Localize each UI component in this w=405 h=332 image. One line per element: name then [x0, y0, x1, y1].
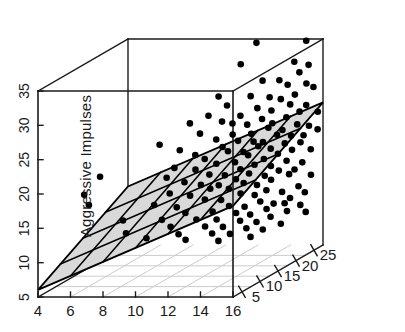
data-point: [192, 166, 199, 173]
data-point: [250, 138, 257, 145]
floor-grid-line-x: [168, 245, 258, 297]
data-point: [213, 216, 220, 223]
data-point: [120, 217, 127, 224]
y-tick-label: 25: [320, 246, 337, 263]
data-point: [259, 226, 266, 233]
data-point: [224, 102, 231, 109]
z-tick-label: 35: [16, 83, 32, 99]
y-tick-label: 20: [302, 257, 319, 274]
data-point: [151, 202, 158, 209]
y-tick: [275, 266, 281, 277]
data-point: [202, 223, 209, 230]
data-point: [254, 182, 261, 189]
data-point: [181, 179, 188, 186]
data-point: [213, 136, 220, 143]
data-point: [232, 159, 239, 166]
data-point: [305, 62, 312, 69]
data-point: [237, 112, 244, 119]
data-point: [159, 217, 166, 224]
scatter3d-plot: 510152025303546810121416510152025: [0, 0, 405, 332]
data-point: [207, 185, 214, 192]
data-point: [261, 173, 268, 180]
data-point: [209, 208, 216, 215]
data-point: [274, 131, 281, 138]
data-point: [268, 163, 275, 170]
x-tick-label: 14: [192, 302, 209, 319]
data-point: [302, 189, 309, 196]
figure-root: 510152025303546810121416510152025 Aggres…: [0, 0, 405, 332]
data-point: [276, 77, 283, 84]
data-point: [227, 231, 234, 238]
data-point: [314, 109, 321, 116]
data-point: [218, 197, 225, 204]
z-tick-label: 20: [16, 186, 32, 202]
data-point: [294, 121, 301, 128]
data-point: [299, 159, 306, 166]
data-point: [229, 120, 236, 127]
data-point: [289, 147, 296, 154]
data-point: [308, 172, 315, 179]
data-point: [215, 238, 222, 245]
z-tick-label: 30: [16, 117, 32, 133]
y-tick: [257, 276, 263, 287]
data-point: [296, 108, 303, 115]
data-point: [182, 237, 189, 244]
data-point: [219, 144, 226, 151]
data-point: [166, 190, 173, 197]
z-tick-label: 10: [16, 255, 32, 271]
data-point: [206, 171, 213, 178]
data-point: [281, 140, 288, 147]
z-tick-label: 15: [16, 220, 32, 236]
data-point: [279, 127, 286, 134]
data-point: [235, 138, 242, 145]
y-tick: [293, 255, 299, 266]
data-point: [202, 196, 209, 203]
x-tick-label: 10: [127, 302, 144, 319]
data-point: [237, 190, 244, 197]
data-point: [251, 161, 258, 168]
data-point: [229, 131, 236, 138]
z-axis-title-wrapper: Aggressive Impulses: [377, 0, 403, 332]
data-point: [300, 132, 307, 139]
data-point: [268, 177, 275, 184]
data-point: [241, 203, 248, 210]
data-point: [237, 61, 244, 68]
y-tick: [311, 245, 317, 256]
data-point: [295, 183, 302, 190]
data-point: [303, 80, 310, 87]
data-point: [270, 200, 277, 207]
data-point: [283, 114, 290, 121]
data-point: [248, 131, 255, 138]
data-point: [143, 235, 150, 242]
data-point: [219, 118, 226, 125]
data-point: [303, 37, 310, 44]
floor-grid-line-x: [136, 245, 226, 297]
data-point: [266, 94, 273, 101]
x-tick-label: 16: [225, 302, 242, 319]
data-point: [193, 216, 200, 223]
z-tick-label: 5: [16, 293, 32, 301]
data-point: [222, 172, 229, 179]
data-point: [297, 139, 304, 146]
data-point: [209, 230, 216, 237]
data-point: [310, 84, 317, 91]
data-point: [279, 189, 286, 196]
z-axis-title: Aggressive Impulses: [72, 0, 98, 332]
data-point: [233, 210, 240, 217]
data-point: [291, 166, 298, 173]
data-point: [288, 132, 295, 139]
data-point: [177, 147, 184, 154]
data-point: [257, 198, 264, 205]
data-point: [284, 81, 291, 88]
data-point: [215, 93, 222, 100]
data-point: [261, 156, 268, 163]
data-point: [243, 225, 250, 232]
data-point: [192, 152, 199, 159]
data-point: [268, 107, 275, 114]
data-point: [259, 116, 266, 123]
data-point: [276, 167, 283, 174]
data-point: [197, 130, 204, 137]
y-tick: [239, 286, 245, 297]
data-point: [278, 96, 285, 103]
data-point: [314, 126, 321, 133]
